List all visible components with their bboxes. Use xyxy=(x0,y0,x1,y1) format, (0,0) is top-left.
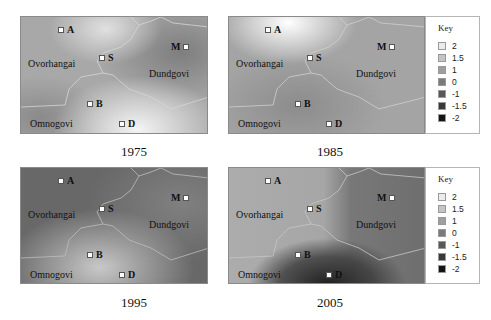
legend-title: Key xyxy=(438,23,453,33)
legend-item: -1.5 xyxy=(438,252,467,262)
site-m: M xyxy=(377,42,395,52)
legend-item: 2 xyxy=(438,41,457,51)
site-s: S xyxy=(99,204,114,214)
site-d: D xyxy=(119,119,135,129)
legend-item: -2 xyxy=(438,113,460,123)
site-d: D xyxy=(326,119,342,129)
legend-item: 2 xyxy=(438,192,457,202)
year-label-2005: 2005 xyxy=(280,295,380,311)
year-label-1985: 1985 xyxy=(280,144,380,160)
legend-item: -2 xyxy=(438,264,460,274)
legend-item: 1 xyxy=(438,216,457,226)
legend-item: 1.5 xyxy=(438,204,464,214)
region-ovorhangai: Ovorhangai xyxy=(28,59,75,69)
region-omnogovi: Omnogovi xyxy=(238,270,281,280)
region-dundgovi: Dundgovi xyxy=(356,220,396,230)
site-a: A xyxy=(265,25,281,35)
legend-top: Key 2 1.5 1 0 -1 -1.5 -2 xyxy=(425,16,480,134)
year-label-1975: 1975 xyxy=(84,144,184,160)
region-omnogovi: Omnogovi xyxy=(238,119,281,129)
legend-bottom: Key 2 1.5 1 0 -1 -1.5 -2 xyxy=(425,167,480,284)
map-1995: A S M B D Ovorhangai Dundgovi Omnogovi xyxy=(20,167,208,284)
legend-item: 0 xyxy=(438,77,457,87)
site-d: D xyxy=(119,270,135,280)
map-2005: A S M B D Ovorhangai Dundgovi Omnogovi xyxy=(228,167,425,284)
region-ovorhangai: Ovorhangai xyxy=(236,59,283,69)
legend-title: Key xyxy=(438,174,453,184)
legend-item: -1 xyxy=(438,240,460,250)
legend-item: 1.5 xyxy=(438,53,464,63)
legend-item: 1 xyxy=(438,65,457,75)
site-m: M xyxy=(171,193,189,203)
site-d: D xyxy=(326,270,342,280)
site-m: M xyxy=(171,42,189,52)
site-s: S xyxy=(307,204,322,214)
map-1975: A S M B D Ovorhangai Dundgovi Omnogovi xyxy=(20,16,208,134)
site-a: A xyxy=(58,176,74,186)
site-b: B xyxy=(87,99,103,109)
site-a: A xyxy=(265,176,281,186)
site-b: B xyxy=(87,250,103,260)
year-label-1995: 1995 xyxy=(84,295,184,311)
region-omnogovi: Omnogovi xyxy=(30,119,73,129)
region-ovorhangai: Ovorhangai xyxy=(236,210,283,220)
site-b: B xyxy=(295,250,311,260)
site-s: S xyxy=(99,53,114,63)
region-omnogovi: Omnogovi xyxy=(30,270,73,280)
site-m: M xyxy=(377,193,395,203)
map-1985: A S M B D Ovorhangai Dundgovi Omnogovi xyxy=(228,16,425,134)
legend-item: -1 xyxy=(438,89,460,99)
site-a: A xyxy=(58,25,74,35)
site-s: S xyxy=(307,53,322,63)
region-dundgovi: Dundgovi xyxy=(149,69,189,79)
legend-item: 0 xyxy=(438,228,457,238)
site-b: B xyxy=(295,99,311,109)
region-dundgovi: Dundgovi xyxy=(149,220,189,230)
legend-item: -1.5 xyxy=(438,101,467,111)
region-ovorhangai: Ovorhangai xyxy=(28,210,75,220)
region-dundgovi: Dundgovi xyxy=(356,69,396,79)
